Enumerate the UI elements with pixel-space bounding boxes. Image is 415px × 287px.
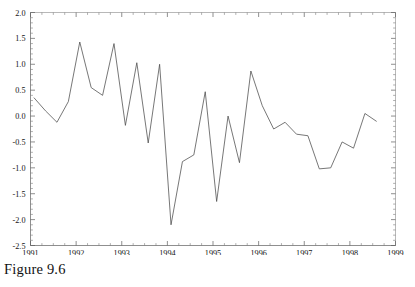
svg-text:1995: 1995: [205, 249, 221, 255]
svg-text:-2.0: -2.0: [13, 216, 26, 225]
svg-text:1992: 1992: [68, 249, 84, 255]
line-chart-svg: 2.01.51.00.50.0-0.5-1.0-1.5-2.0-2.5 1991…: [0, 0, 415, 255]
svg-text:1998: 1998: [342, 249, 358, 255]
svg-text:1999: 1999: [387, 249, 403, 255]
plot-frame: [31, 13, 396, 246]
svg-text:1991: 1991: [22, 249, 38, 255]
svg-text:2.0: 2.0: [15, 9, 25, 18]
svg-text:-1.5: -1.5: [13, 190, 26, 199]
data-series-line: [34, 42, 376, 225]
svg-text:0.0: 0.0: [15, 112, 25, 121]
figure-caption: Figure 9.6: [4, 261, 66, 278]
svg-text:1994: 1994: [159, 249, 175, 255]
svg-text:1996: 1996: [250, 249, 266, 255]
svg-text:1.0: 1.0: [15, 60, 25, 69]
svg-text:1993: 1993: [114, 249, 130, 255]
y-axis-tick-labels: 2.01.51.00.50.0-0.5-1.0-1.5-2.0-2.5: [13, 9, 26, 251]
svg-text:1.5: 1.5: [15, 34, 25, 43]
x-axis-tick-labels: 199119921993199419951996199719981999: [22, 249, 403, 255]
svg-text:-0.5: -0.5: [13, 138, 26, 147]
axis-ticks: [31, 13, 396, 246]
svg-text:1997: 1997: [296, 249, 312, 255]
svg-text:0.5: 0.5: [15, 86, 25, 95]
figure-container: 2.01.51.00.50.0-0.5-1.0-1.5-2.0-2.5 1991…: [0, 0, 415, 287]
data-series-group: [34, 42, 376, 225]
svg-text:-1.0: -1.0: [13, 164, 26, 173]
chart-plot-area: 2.01.51.00.50.0-0.5-1.0-1.5-2.0-2.5 1991…: [0, 0, 415, 255]
